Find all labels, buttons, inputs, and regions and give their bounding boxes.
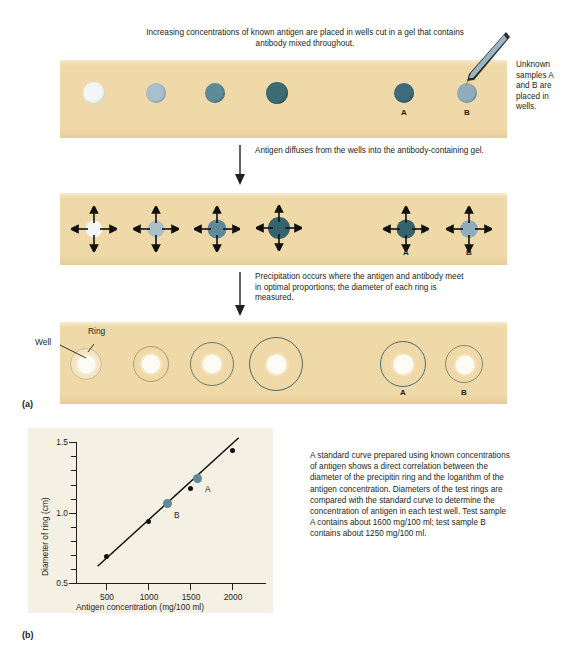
ring-2-well xyxy=(142,355,160,373)
well-3 xyxy=(205,83,225,103)
well-callout-label: Well xyxy=(35,337,51,348)
radial-immunodiffusion-figure: Increasing concentrations of known antig… xyxy=(0,0,567,658)
step-arrow-1 xyxy=(232,145,248,187)
well-5-sample-a xyxy=(394,83,414,103)
chart-caption: A standard curve prepared using known co… xyxy=(310,450,510,540)
diffusion-label-a: A xyxy=(399,248,413,257)
step2-caption: Antigen diffuses from the wells into the… xyxy=(255,146,485,157)
data-label-b: B xyxy=(174,511,179,520)
data-label-a: A xyxy=(205,485,210,494)
well-label-a: A xyxy=(397,108,411,117)
ring-4 xyxy=(249,337,303,391)
data-point-standard xyxy=(146,519,151,524)
diffusion-well-1 xyxy=(71,206,117,252)
data-point-standard xyxy=(230,448,235,453)
diffusion-well-3 xyxy=(194,206,240,252)
ring-5-sample-a xyxy=(380,341,426,387)
well-4 xyxy=(266,82,288,104)
gel-shading xyxy=(60,128,507,138)
standard-curve-line xyxy=(28,428,273,613)
gel-shading-2 xyxy=(60,255,507,265)
diffusion-well-6-sample-b xyxy=(446,206,492,252)
well-2 xyxy=(146,83,166,103)
diffusion-well-5-sample-a xyxy=(383,206,429,252)
diffusion-well-2 xyxy=(133,206,179,252)
data-point-sample-a xyxy=(193,474,202,483)
diffusion-label-b: B xyxy=(462,248,476,257)
well-6-sample-b xyxy=(457,83,477,103)
diffusion-well-4 xyxy=(256,205,302,251)
pipette-icon xyxy=(452,30,512,86)
gel-shading-3 xyxy=(60,394,507,404)
panel-a-label: (a) xyxy=(22,399,33,409)
well-label-b: B xyxy=(460,108,474,117)
ring-6-well xyxy=(456,356,474,374)
step-arrow-2 xyxy=(232,272,248,318)
ring-4-well xyxy=(267,355,286,374)
standard-curve-chart: 1.5 1.0 0.5 500 1000 1500 2000 Diameter … xyxy=(28,428,273,613)
ring-2 xyxy=(133,346,169,382)
ring-3 xyxy=(190,342,234,386)
ring-callout-label: Ring xyxy=(88,326,105,337)
ring-5-well xyxy=(394,355,413,374)
ring-label-a: A xyxy=(396,388,410,397)
ring-3-well xyxy=(203,355,221,373)
step3-caption: Precipitation occurs where the antigen a… xyxy=(255,272,470,304)
step1-side-caption: Unknown samples A and B are placed in we… xyxy=(516,60,566,113)
ring-label-b: B xyxy=(457,388,471,397)
well-1 xyxy=(83,82,105,104)
panel-b-label: (b) xyxy=(22,630,34,640)
ring-6-sample-b xyxy=(445,345,483,383)
data-point-standard xyxy=(188,486,193,491)
data-point-standard xyxy=(104,554,109,559)
data-point-sample-b xyxy=(163,499,172,508)
step1-caption: Increasing concentrations of known antig… xyxy=(145,28,465,49)
